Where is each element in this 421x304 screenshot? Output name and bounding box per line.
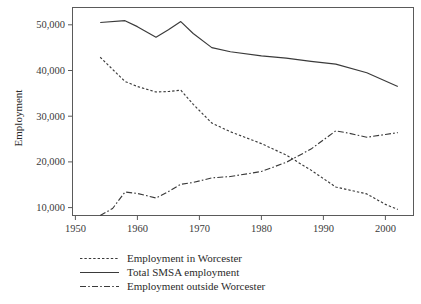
x-tick-label: 1990 xyxy=(313,223,334,234)
x-tick-label: 1980 xyxy=(251,223,272,234)
chart-legend: Employment in Worcester Total SMSA emplo… xyxy=(80,252,266,292)
legend-item-label: Total SMSA employment xyxy=(127,266,239,278)
x-axis-ticks: 1950 1960 1970 1980 1990 2000 xyxy=(65,216,396,235)
y-tick-30000: 30,000 xyxy=(36,111,72,122)
y-tick-label: 50,000 xyxy=(36,19,65,30)
x-tick-label: 1950 xyxy=(65,223,86,234)
plot-frame xyxy=(73,8,414,216)
legend-item-total-smsa-employment: Total SMSA employment xyxy=(80,266,239,278)
y-tick-label: 10,000 xyxy=(36,202,65,213)
legend-item-employment-outside-worcester: Employment outside Worcester xyxy=(80,280,266,292)
y-axis-ticks: 10,000 20,000 30,000 40,000 50,000 xyxy=(36,19,72,213)
x-tick-1950: 1950 xyxy=(65,216,86,235)
legend-item-label: Employment outside Worcester xyxy=(127,280,266,292)
x-tick-1990: 1990 xyxy=(313,216,334,235)
x-tick-2000: 2000 xyxy=(375,216,396,235)
y-tick-label: 30,000 xyxy=(36,111,65,122)
series-employment-in-worcester xyxy=(100,57,398,209)
y-tick-20000: 20,000 xyxy=(36,156,72,167)
chart-svg: Employment 10,000 20,000 30,000 40,000 5… xyxy=(0,0,421,304)
y-axis-title: Employment xyxy=(12,90,24,147)
series-employment-outside-worcester xyxy=(100,131,398,216)
series-group xyxy=(100,21,398,216)
legend-item-employment-in-worcester: Employment in Worcester xyxy=(80,252,242,264)
series-total-smsa-employment xyxy=(100,21,398,87)
y-tick-40000: 40,000 xyxy=(36,65,72,76)
legend-item-label: Employment in Worcester xyxy=(127,252,242,264)
y-tick-label: 20,000 xyxy=(36,156,65,167)
x-tick-1970: 1970 xyxy=(189,216,210,235)
employment-line-chart-figure: Employment 10,000 20,000 30,000 40,000 5… xyxy=(0,0,421,304)
y-tick-10000: 10,000 xyxy=(36,202,72,213)
y-tick-label: 40,000 xyxy=(36,65,65,76)
x-tick-label: 2000 xyxy=(375,223,396,234)
x-tick-label: 1960 xyxy=(127,223,148,234)
x-tick-label: 1970 xyxy=(189,223,210,234)
x-tick-1980: 1980 xyxy=(251,216,272,235)
x-tick-1960: 1960 xyxy=(127,216,148,235)
y-tick-50000: 50,000 xyxy=(36,19,72,30)
